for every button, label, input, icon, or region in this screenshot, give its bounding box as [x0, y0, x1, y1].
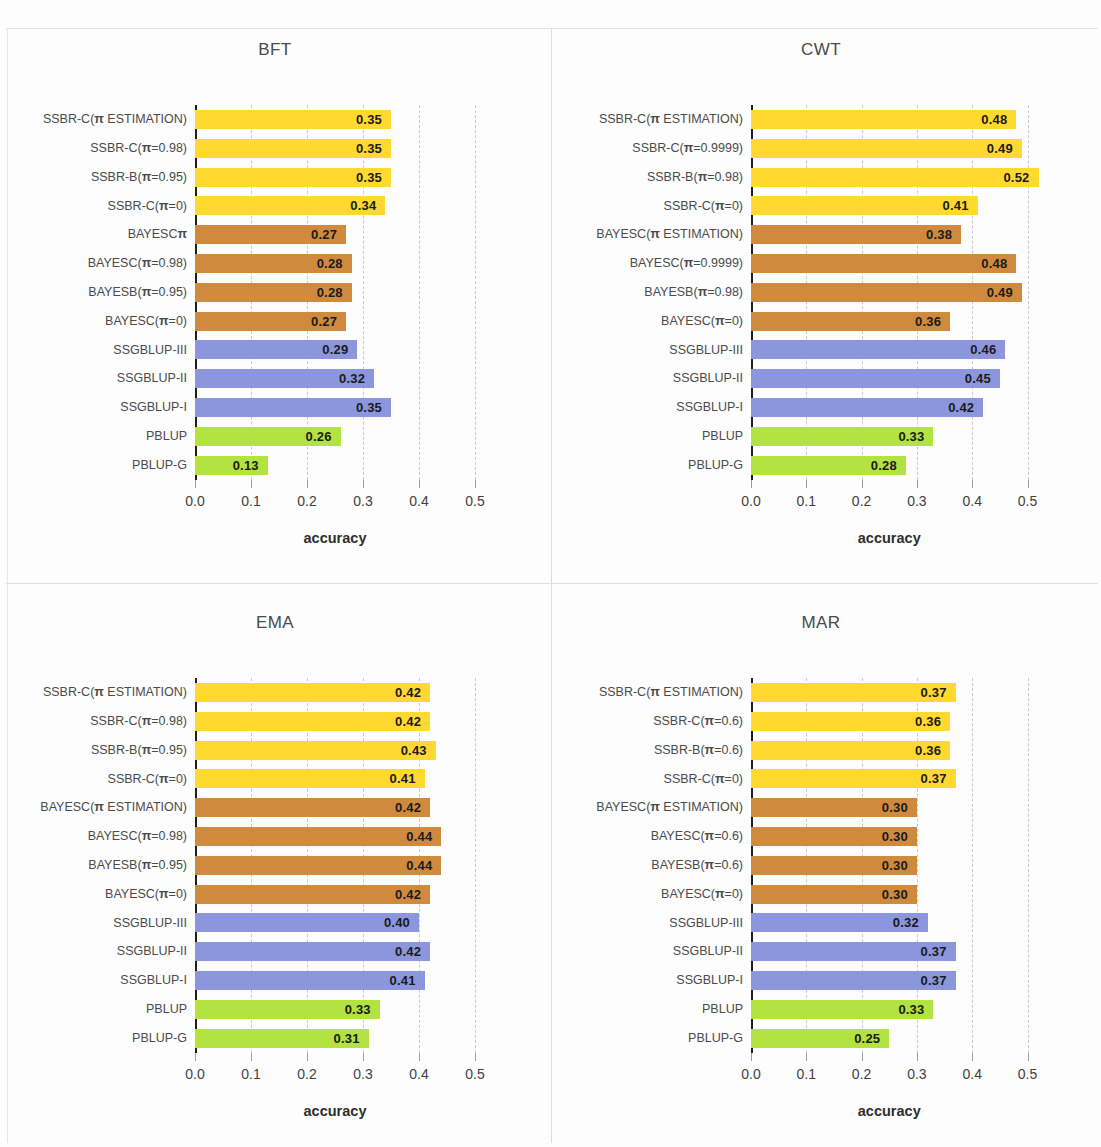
bar-track: 0.46: [751, 335, 1101, 364]
bar-track: 0.42: [751, 393, 1101, 422]
category-label: PBLUP-G: [0, 1032, 195, 1045]
x-axis-tick-mark: [917, 480, 918, 488]
bar-track: 0.48: [751, 249, 1101, 278]
category-label: BAYESC(π=0.9999): [551, 257, 751, 270]
bar-row: SSGBLUP-III0.40: [0, 908, 550, 937]
bar-track: 0.37: [751, 966, 1101, 995]
category-label: BAYESB(π=0.95): [0, 859, 195, 872]
bar-value-label: 0.42: [395, 888, 430, 901]
bar-track: 0.30: [751, 822, 1101, 851]
bar: 0.43: [195, 741, 436, 760]
bar-value-label: 0.42: [395, 945, 430, 958]
bar-track: 0.41: [195, 966, 550, 995]
bar-value-label: 0.35: [356, 142, 391, 155]
x-axis-tick-label: 0.0: [741, 493, 760, 509]
x-axis-tick-mark: [419, 1053, 420, 1061]
bar: 0.44: [195, 856, 441, 875]
x-axis-tick-mark: [751, 1053, 752, 1061]
category-label: SSBR-C(π=0): [0, 773, 195, 786]
bar: 0.13: [195, 456, 268, 475]
x-axis-tick-mark: [972, 1053, 973, 1061]
bar: 0.42: [195, 885, 430, 904]
bar: 0.37: [751, 769, 956, 788]
bar-row: SSBR-C(π ESTIMATION)0.35: [0, 105, 550, 134]
category-label: PBLUP: [0, 430, 195, 443]
bar-row: SSBR-B(π=0.95)0.43: [0, 736, 550, 765]
x-axis-tick-label: 0.4: [409, 1066, 428, 1082]
x-axis-tick-mark: [195, 1053, 196, 1061]
category-label: BAYESC(π=0.98): [0, 830, 195, 843]
bar-row: PBLUP0.33: [551, 995, 1101, 1024]
bar-value-label: 0.34: [350, 199, 385, 212]
bar-value-label: 0.26: [305, 430, 340, 443]
category-label: BAYESC(π=0.98): [0, 257, 195, 270]
category-label: PBLUP-G: [551, 459, 751, 472]
bar-row: BAYESC(π=0.98)0.44: [0, 822, 550, 851]
plot-area: SSBR-C(π ESTIMATION)0.42SSBR-C(π=0.98)0.…: [0, 678, 550, 1063]
category-label: SSGBLUP-III: [551, 917, 751, 930]
bar-track: 0.38: [751, 220, 1101, 249]
x-axis-tick-mark: [917, 1053, 918, 1061]
category-label: SSBR-C(π=0.98): [0, 715, 195, 728]
bar: 0.42: [751, 398, 983, 417]
x-axis-tick-label: 0.0: [741, 1066, 760, 1082]
bar-row: SSGBLUP-II0.42: [0, 937, 550, 966]
bar-value-label: 0.45: [965, 372, 1000, 385]
bar-row: SSGBLUP-II0.37: [551, 937, 1101, 966]
bar-track: 0.32: [751, 908, 1101, 937]
bar-value-label: 0.28: [317, 286, 352, 299]
x-axis-title: accuracy: [858, 530, 921, 546]
bar-track: 0.35: [195, 163, 550, 192]
x-axis-title: accuracy: [304, 1103, 367, 1119]
bar: 0.48: [751, 110, 1016, 129]
x-axis-tick-mark: [363, 1053, 364, 1061]
bar-row: BAYESCπ0.27: [0, 220, 550, 249]
bar-row: SSBR-C(π=0.9999)0.49: [551, 134, 1101, 163]
x-axis-tick-label: 0.2: [852, 493, 871, 509]
bar-track: 0.33: [751, 995, 1101, 1024]
bar-track: 0.44: [195, 822, 550, 851]
bar-track: 0.28: [195, 249, 550, 278]
bar-row: SSBR-C(π=0.6)0.36: [551, 707, 1101, 736]
bar-row: SSBR-C(π ESTIMATION)0.37: [551, 678, 1101, 707]
bar: 0.35: [195, 110, 391, 129]
bar-track: 0.26: [195, 422, 550, 451]
category-label: SSBR-C(π=0): [551, 773, 751, 786]
x-axis-tick-label: 0.1: [241, 1066, 260, 1082]
category-label: BAYESB(π=0.98): [551, 286, 751, 299]
category-label: BAYESC(π=0): [0, 315, 195, 328]
x-axis-tick-mark: [1028, 480, 1029, 488]
bar: 0.44: [195, 827, 441, 846]
bar-value-label: 0.28: [317, 257, 352, 270]
panel-title: EMA: [0, 613, 550, 633]
bar-value-label: 0.37: [921, 772, 956, 785]
bar: 0.28: [195, 283, 352, 302]
bar-rows: SSBR-C(π ESTIMATION)0.42SSBR-C(π=0.98)0.…: [0, 678, 550, 1052]
bar-row: BAYESC(π ESTIMATION)0.38: [551, 220, 1101, 249]
panel-title: MAR: [551, 613, 1091, 633]
bar: 0.30: [751, 885, 917, 904]
bar-rows: SSBR-C(π ESTIMATION)0.35SSBR-C(π=0.98)0.…: [0, 105, 550, 479]
bar-row: BAYESC(π ESTIMATION)0.42: [0, 793, 550, 822]
bar-value-label: 0.30: [882, 801, 917, 814]
x-axis-tick-labels: 0.00.10.20.30.40.5: [551, 493, 1101, 513]
bar: 0.34: [195, 196, 385, 215]
bar: 0.36: [751, 741, 950, 760]
bar-value-label: 0.49: [987, 142, 1022, 155]
category-label: SSGBLUP-III: [551, 344, 751, 357]
bar: 0.49: [751, 139, 1022, 158]
bar-track: 0.44: [195, 851, 550, 880]
bar: 0.41: [195, 971, 425, 990]
bar-value-label: 0.42: [395, 686, 430, 699]
bar-track: 0.27: [195, 220, 550, 249]
bar: 0.41: [195, 769, 425, 788]
category-label: SSBR-C(π=0): [0, 200, 195, 213]
bar-row: SSBR-B(π=0.6)0.36: [551, 736, 1101, 765]
x-axis-tick-label: 0.5: [465, 1066, 484, 1082]
bar-track: 0.49: [751, 134, 1101, 163]
plot-area: SSBR-C(π ESTIMATION)0.48SSBR-C(π=0.9999)…: [551, 105, 1101, 490]
bar-value-label: 0.28: [871, 459, 906, 472]
x-axis-tick-label: 0.0: [185, 493, 204, 509]
bar-track: 0.41: [751, 191, 1101, 220]
bar-value-label: 0.41: [389, 974, 424, 987]
